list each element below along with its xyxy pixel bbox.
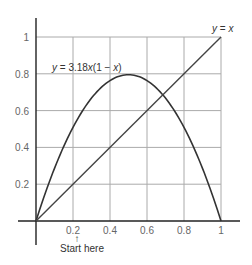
y-tick-label: 0.6 [15,106,29,117]
x-tick-label: 0.8 [177,225,191,236]
x-tick-label: 0.6 [140,225,154,236]
start-here-label: Start here [60,243,104,254]
y-tick-labels: 0.20.40.60.81 [15,32,29,190]
logistic-map-chart: 0.20.40.60.81 0.20.40.60.81 y = 3.18x(1 … [0,0,252,265]
x-tick-label: 1 [218,225,224,236]
x-tick-label: 0.4 [103,225,117,236]
x-tick-labels: 0.20.40.60.81 [66,225,224,236]
y-tick-label: 1 [23,32,29,43]
y-tick-label: 0.8 [15,69,29,80]
y-tick-label: 0.4 [15,142,29,153]
y-tick-label: 0.2 [15,179,29,190]
curve-label: y = 3.18x(1 − x) [51,62,122,73]
identity-line-label: y = x [211,23,234,34]
